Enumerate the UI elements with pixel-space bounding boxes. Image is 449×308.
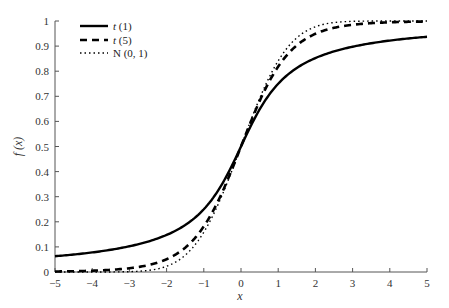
- cdf-chart: −5−4−3−2−101234500.10.20.30.40.50.60.70.…: [0, 0, 449, 308]
- x-axis-label: x: [236, 289, 243, 303]
- axes: −5−4−3−2−101234500.10.20.30.40.50.60.70.…: [11, 15, 430, 303]
- y-tick-label: 0: [44, 266, 50, 278]
- x-tick-label: 1: [275, 277, 281, 289]
- y-tick-label: 0.9: [35, 40, 49, 52]
- x-tick-label: 2: [313, 277, 319, 289]
- y-tick-label: 0.3: [35, 191, 49, 203]
- y-tick-label: 0.1: [35, 241, 49, 253]
- y-tick-label: 0.4: [35, 166, 49, 178]
- y-tick-label: 0.2: [35, 216, 49, 228]
- y-tick-label: 0.6: [35, 115, 49, 127]
- series-line-dotted: [55, 21, 427, 272]
- x-tick-label: −5: [49, 277, 61, 289]
- legend: t (1)t (5)N (0, 1): [80, 20, 148, 60]
- x-tick-label: 4: [387, 277, 393, 289]
- x-tick-label: 5: [424, 277, 430, 289]
- legend-label: t (1): [113, 20, 132, 33]
- x-tick-label: −3: [124, 277, 136, 289]
- y-tick-label: 0.5: [35, 141, 49, 153]
- plot-lines: [55, 21, 427, 272]
- legend-label: N (0, 1): [113, 47, 148, 60]
- x-tick-label: 0: [238, 277, 244, 289]
- x-tick-label: 3: [350, 277, 356, 289]
- y-axis-label: f (x): [11, 137, 25, 157]
- y-tick-label: 0.8: [35, 65, 49, 77]
- y-tick-label: 0.7: [35, 90, 49, 102]
- x-tick-label: −4: [86, 277, 98, 289]
- legend-label: t (5): [113, 34, 132, 47]
- y-tick-label: 1: [44, 15, 50, 27]
- x-tick-label: −1: [198, 277, 210, 289]
- x-tick-label: −2: [161, 277, 173, 289]
